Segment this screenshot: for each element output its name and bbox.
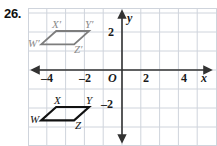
- y-axis-arrow-down: [119, 135, 126, 142]
- y-axis-arrow-up: [119, 11, 126, 18]
- image-vertex-label-Y: Y′: [85, 19, 94, 30]
- origin-label: O: [108, 72, 117, 84]
- x-tick-label-pos2: 2: [143, 72, 149, 84]
- image-vertex-label-Z: Z′: [74, 44, 83, 55]
- y-axis-label: y: [127, 12, 132, 24]
- x-tick-label-pos4: 4: [181, 72, 187, 84]
- x-axis-arrow-left: [32, 67, 39, 74]
- image-vertex-label-X: X′: [52, 19, 61, 30]
- coordinate-graph: –4 –2 2 4 2 –2 O y x X′ Y′ W′ Z′ X Y W Z: [28, 8, 217, 146]
- image-vertex-label-W: W′: [28, 38, 40, 49]
- preimage-vertex-label-Y: Y: [86, 95, 92, 106]
- y-tick-label-pos2: 2: [108, 26, 114, 38]
- x-tick-label-neg2: –2: [79, 72, 91, 84]
- preimage-vertex-label-Z: Z: [75, 120, 81, 131]
- figure-root: 26.: [0, 0, 217, 146]
- preimage-vertex-label-X: X: [54, 95, 61, 106]
- x-tick-label-neg4: –4: [41, 72, 53, 84]
- x-axis-label: x: [201, 72, 207, 84]
- y-tick-label-neg2: –2: [101, 98, 113, 110]
- problem-number: 26.: [4, 6, 21, 21]
- preimage-vertex-label-W: W: [30, 114, 39, 125]
